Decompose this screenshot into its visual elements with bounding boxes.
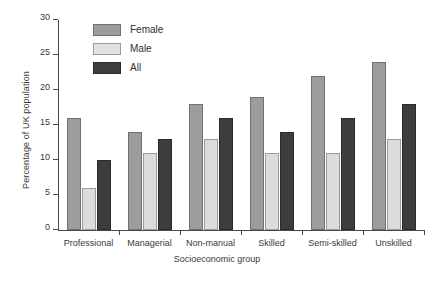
legend-item-female: Female [93, 20, 163, 39]
x-tick [119, 230, 120, 235]
legend-label-male: Male [130, 43, 152, 54]
female-swatch-icon [93, 24, 121, 36]
y-tick-label: 5 [45, 187, 50, 197]
bar-chart: Percentage of UK population 051015202530… [0, 0, 434, 282]
y-tick: 0 [53, 229, 58, 230]
legend-label-all: All [130, 62, 141, 73]
bar [204, 139, 218, 230]
x-tick [363, 230, 364, 235]
legend-item-all: All [93, 58, 163, 77]
bar [128, 132, 142, 230]
bar [250, 97, 264, 230]
bar [158, 139, 172, 230]
category-label: Professional [64, 238, 114, 248]
category-label: Skilled [258, 238, 285, 248]
bar [280, 132, 294, 230]
y-tick-label: 30 [40, 12, 50, 22]
all-swatch-icon [93, 62, 121, 74]
legend-label-female: Female [130, 24, 163, 35]
category-label: Non-manual [186, 238, 235, 248]
y-tick-label: 20 [40, 82, 50, 92]
y-tick: 25 [53, 54, 58, 55]
x-tick [241, 230, 242, 235]
y-tick-label: 10 [40, 152, 50, 162]
male-swatch-icon [93, 43, 121, 55]
legend: Female Male All [93, 20, 163, 77]
y-tick: 30 [53, 19, 58, 20]
y-tick: 10 [53, 159, 58, 160]
x-tick [424, 230, 425, 235]
x-axis-title: Socioeconomic group [0, 254, 434, 264]
bar [189, 104, 203, 230]
bar [219, 118, 233, 230]
bar [311, 76, 325, 230]
y-axis-title: Percentage of UK population [21, 50, 31, 210]
bar [265, 153, 279, 230]
bar [387, 139, 401, 230]
category-label: Unskilled [375, 238, 412, 248]
x-tick [302, 230, 303, 235]
bar [97, 160, 111, 230]
category-label: Semi-skilled [308, 238, 357, 248]
y-axis-line [58, 20, 59, 231]
category-label: Managerial [127, 238, 172, 248]
y-tick: 5 [53, 194, 58, 195]
bar [143, 153, 157, 230]
bar [82, 188, 96, 230]
bar [372, 62, 386, 230]
y-tick: 15 [53, 124, 58, 125]
legend-item-male: Male [93, 39, 163, 58]
y-tick-label: 25 [40, 47, 50, 57]
y-tick: 20 [53, 89, 58, 90]
bar [402, 104, 416, 230]
bar [67, 118, 81, 230]
bar [326, 153, 340, 230]
y-tick-label: 15 [40, 117, 50, 127]
x-tick [180, 230, 181, 235]
y-tick-label: 0 [45, 222, 50, 232]
bar [341, 118, 355, 230]
